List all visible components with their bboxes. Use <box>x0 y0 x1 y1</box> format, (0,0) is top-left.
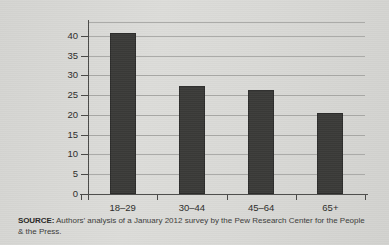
x-axis-tick-label: 18–29 <box>83 203 163 213</box>
y-axis-tick-label: 20 <box>0 110 78 120</box>
x-axis-tick-label: 30–44 <box>152 203 232 213</box>
y-axis-tick <box>81 36 88 37</box>
y-axis-tick-label: 15 <box>0 130 78 140</box>
y-axis-tick-label: 25 <box>0 90 78 100</box>
y-axis-tick <box>81 154 88 155</box>
y-axis-tick-label: 40 <box>0 31 78 41</box>
y-axis-tick <box>81 174 88 175</box>
y-axis-tick <box>81 95 88 96</box>
x-axis-tick <box>88 195 89 200</box>
y-axis-tick-label: 10 <box>0 149 78 159</box>
x-axis-line <box>80 194 368 195</box>
x-axis-tick <box>157 195 158 200</box>
y-axis-tick <box>81 75 88 76</box>
x-axis-tick <box>365 195 366 200</box>
x-axis-tick-label: 45–64 <box>221 203 301 213</box>
x-axis-tick <box>296 195 297 200</box>
chart-canvas <box>88 22 365 194</box>
x-axis-tick <box>227 195 228 200</box>
y-axis-tick <box>81 135 88 136</box>
y-axis-tick <box>81 194 88 195</box>
x-axis-tick <box>81 195 82 200</box>
y-axis-tick-label: 0 <box>0 189 78 199</box>
y-axis-tick-label: 5 <box>0 169 78 179</box>
source-text: Authors’ analysis of a January 2012 surv… <box>18 216 365 236</box>
y-axis-line <box>88 20 89 196</box>
figure: % who regularly or sometimes learn about… <box>0 0 389 245</box>
y-axis-tick <box>81 56 88 57</box>
source-label: SOURCE: <box>18 216 54 225</box>
x-axis-tick-label: 65+ <box>290 203 370 213</box>
y-axis-tick <box>81 115 88 116</box>
y-axis-tick-label: 35 <box>0 51 78 61</box>
source-note: SOURCE: Authors’ analysis of a January 2… <box>18 215 370 237</box>
y-axis-tick-label: 30 <box>0 70 78 80</box>
